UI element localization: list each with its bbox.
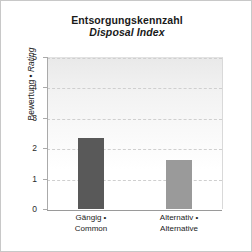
- gridline-1: [47, 180, 222, 181]
- y-tick-mark-2: [43, 148, 47, 149]
- y-tick-label-3: 3: [7, 113, 37, 123]
- gridline-0: [47, 210, 222, 211]
- gridline-5: [47, 58, 222, 59]
- chart-title-block: Entsorgungskennzahl Disposal Index: [1, 14, 252, 39]
- x-tick-label-2-line2: Alternative: [135, 224, 223, 235]
- x-tick-label-1-line1: Gängig •: [76, 213, 107, 222]
- chart-subtitle-english: Disposal Index: [1, 26, 252, 38]
- y-axis-spine: [47, 57, 48, 210]
- x-tick-label-1-line2: Common: [47, 224, 135, 235]
- plot-area: [47, 57, 223, 209]
- y-tick-mark-1: [43, 179, 47, 180]
- y-tick-mark-4: [43, 87, 47, 88]
- y-tick-label-5: 5: [7, 52, 37, 62]
- gridline-4: [47, 88, 222, 89]
- y-tick-mark-5: [43, 57, 47, 58]
- gridlines: [47, 58, 222, 209]
- y-tick-mark-3: [43, 118, 47, 119]
- y-tick-label-1: 1: [7, 174, 37, 184]
- bar-2: [166, 160, 192, 209]
- chart-title-german: Entsorgungskennzahl: [1, 14, 252, 26]
- chart-figure: Entsorgungskennzahl Disposal Index Bewer…: [0, 0, 252, 252]
- x-tick-label-2: Alternativ •Alternative: [135, 213, 223, 235]
- bar-1: [78, 138, 104, 209]
- gridline-3: [47, 119, 222, 120]
- y-tick-label-2: 2: [7, 143, 37, 153]
- x-tick-label-1: Gängig •Common: [47, 213, 135, 235]
- y-tick-mark-0: [43, 209, 47, 210]
- y-tick-label-0: 0: [7, 204, 37, 214]
- x-tick-label-2-line1: Alternativ •: [160, 213, 198, 222]
- y-tick-label-4: 4: [7, 82, 37, 92]
- gridline-2: [47, 149, 222, 150]
